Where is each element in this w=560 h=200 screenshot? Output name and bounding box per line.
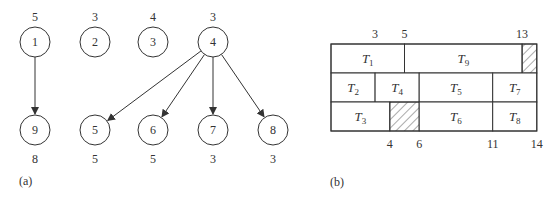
idle-slot	[390, 102, 419, 131]
gantt-row-2: T2T4T5T7	[331, 73, 537, 102]
node-label: 3	[150, 35, 156, 49]
node-label: 9	[32, 123, 38, 137]
idle-slot	[522, 44, 537, 73]
task-bar-T2: T2	[331, 73, 375, 102]
node-weight: 5	[150, 152, 156, 166]
node-weight: 8	[32, 152, 38, 166]
task-bar-T5: T5	[419, 73, 493, 102]
edge-4-to-8	[221, 54, 264, 116]
node-label: 4	[210, 35, 216, 49]
gantt-row-3: T3T6T8	[331, 102, 537, 131]
task-node-6: 65	[138, 115, 168, 166]
node-weight: 3	[210, 10, 216, 24]
task-node-4: 43	[198, 10, 228, 57]
node-weight: 3	[92, 10, 98, 24]
time-tick-top: 3	[372, 27, 378, 41]
gantt-schedule-panel: T1T9T2T4T5T7T3T6T83513461114(b)	[330, 27, 543, 189]
edge-4-to-5	[108, 51, 201, 120]
task-node-3: 34	[138, 10, 168, 57]
gantt-row-1: T1T9	[331, 44, 537, 73]
task-node-5: 55	[80, 115, 110, 166]
node-label: 8	[270, 123, 276, 137]
task-bar-T3: T3	[331, 102, 390, 131]
node-label: 7	[210, 123, 216, 137]
task-bar-T9: T9	[405, 44, 523, 73]
task-node-8: 83	[258, 115, 288, 166]
task-bar-T1: T1	[331, 44, 405, 73]
caption-a: (a)	[19, 174, 32, 188]
time-tick-bottom: 14	[531, 137, 543, 151]
time-tick-bottom: 4	[387, 137, 393, 151]
task-node-2: 23	[80, 10, 110, 57]
time-tick-bottom: 11	[487, 137, 499, 151]
task-bar-T4: T4	[375, 73, 419, 102]
task-bar-T7: T7	[493, 73, 537, 102]
time-tick-top: 5	[402, 27, 408, 41]
task-node-7: 73	[198, 115, 228, 166]
caption-b: (b)	[330, 175, 344, 189]
node-label: 1	[32, 35, 38, 49]
node-label: 5	[92, 123, 98, 137]
task-graph-panel: 152334439855657383(a)	[19, 10, 288, 188]
node-label: 2	[92, 35, 98, 49]
node-weight: 5	[92, 152, 98, 166]
task-node-9: 98	[20, 115, 50, 166]
node-weight: 3	[270, 152, 276, 166]
time-tick-top: 13	[516, 27, 528, 41]
task-node-1: 15	[20, 10, 50, 57]
task-bar-T6: T6	[419, 102, 493, 131]
node-weight: 5	[32, 10, 38, 24]
task-scheduling-figure: 152334439855657383(a) T1T9T2T4T5T7T3T6T8…	[0, 0, 560, 200]
node-weight: 3	[210, 152, 216, 166]
task-bar-T8: T8	[493, 102, 537, 131]
node-weight: 4	[150, 10, 156, 24]
node-label: 6	[150, 123, 156, 137]
time-tick-bottom: 6	[416, 137, 422, 151]
